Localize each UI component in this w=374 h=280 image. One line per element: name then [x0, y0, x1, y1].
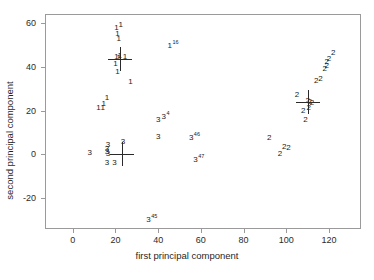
- data-point-label: 2: [306, 104, 310, 112]
- data-point-label: 2: [318, 75, 322, 83]
- centroid-horizontal-bar: [110, 154, 134, 155]
- data-point-label: 2: [278, 150, 282, 158]
- y-tick-mark: [41, 111, 45, 112]
- y-tick-label: -20: [23, 193, 36, 203]
- y-tick-label: 40: [26, 62, 36, 72]
- x-tick-mark: [158, 229, 159, 233]
- data-point-label: 347: [193, 154, 204, 164]
- scatter-plot-figure: 1111111111111111162222222222222222223343…: [0, 0, 374, 280]
- y-tick-mark: [41, 154, 45, 155]
- y-tick-mark: [41, 67, 45, 68]
- data-point-label: 1: [115, 68, 119, 76]
- x-tick-mark: [329, 229, 330, 233]
- y-tick-label: 20: [26, 106, 36, 116]
- x-tick-mark: [201, 229, 202, 233]
- data-point-label: 2: [286, 144, 290, 152]
- x-tick-label: 40: [153, 235, 163, 245]
- x-axis-title: first principal component: [0, 250, 374, 261]
- data-point-label: 3: [112, 159, 116, 167]
- y-tick-label: 60: [26, 18, 36, 28]
- x-tick-mark: [73, 229, 74, 233]
- y-tick-mark: [41, 198, 45, 199]
- data-point-label: 1: [116, 35, 120, 43]
- x-tick-label: 80: [239, 235, 249, 245]
- x-tick-mark: [244, 229, 245, 233]
- data-point-label: 2: [301, 107, 305, 115]
- x-tick-label: 60: [196, 235, 206, 245]
- data-point-label: 1: [117, 52, 121, 60]
- data-point-label: 2: [267, 134, 271, 142]
- data-point-label: 34: [162, 111, 170, 121]
- y-axis-title-text: second principal component: [4, 81, 15, 199]
- plot-data-layer: 1111111111111111162222222222222222223343…: [45, 14, 361, 229]
- data-point-label: 2: [303, 116, 307, 124]
- data-point-label: 1: [100, 104, 104, 112]
- x-tick-label: 20: [110, 235, 120, 245]
- data-point-label: 3: [105, 159, 109, 167]
- x-tick-label: 100: [279, 235, 294, 245]
- data-point-label: 3: [121, 138, 125, 146]
- data-point-label: 346: [189, 132, 200, 142]
- data-point-label: 1: [128, 78, 132, 86]
- x-tick-mark: [115, 229, 116, 233]
- data-point-label: 2: [322, 65, 326, 73]
- data-point-label: 3: [88, 149, 92, 157]
- x-tick-label: 120: [321, 235, 336, 245]
- data-point-label: 3: [156, 116, 160, 124]
- data-point-label: 2: [295, 91, 299, 99]
- y-axis-title: second principal component: [2, 0, 16, 280]
- x-tick-label: 0: [70, 235, 75, 245]
- data-point-label: 116: [168, 40, 179, 50]
- data-point-label: 345: [146, 214, 157, 224]
- x-tick-mark: [286, 229, 287, 233]
- y-tick-mark: [41, 23, 45, 24]
- data-point-label: 3: [156, 133, 160, 141]
- data-point-label: 2: [331, 49, 335, 57]
- y-tick-label: 0: [31, 149, 36, 159]
- data-point-label: 1: [123, 53, 127, 61]
